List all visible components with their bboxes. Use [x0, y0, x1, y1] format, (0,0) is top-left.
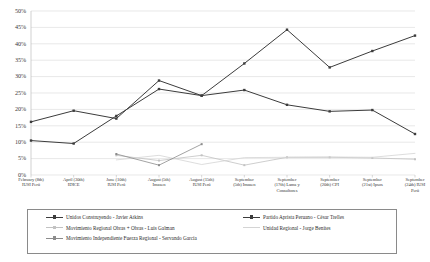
- data-point: [243, 89, 245, 91]
- data-point: [200, 94, 202, 96]
- data-point: [328, 66, 330, 68]
- y-axis-label: 30%: [0, 73, 26, 79]
- legend-item-label: Unidad Regional - Jorge Benites: [263, 225, 331, 231]
- data-point: [414, 34, 416, 36]
- y-axis-label: 10%: [0, 139, 26, 145]
- legend-item-label: Movimiento Independiente Fuerza Regional…: [66, 235, 197, 241]
- data-point: [158, 79, 160, 81]
- data-point: [115, 115, 117, 117]
- data-point: [243, 62, 245, 64]
- legend-swatch-icon: [46, 214, 63, 220]
- data-point: [72, 110, 74, 112]
- data-point: [115, 153, 117, 155]
- legend-item-label: Partido Aprista Peruano - César Trelles: [263, 214, 344, 220]
- legend-swatch-icon: [243, 214, 260, 220]
- x-axis-label: April (30th)IDICE: [54, 177, 94, 188]
- legend-swatch-icon: [243, 225, 260, 231]
- data-point: [286, 104, 288, 106]
- data-point: [371, 109, 373, 111]
- y-axis-label: 25%: [0, 90, 26, 96]
- x-axis-label: September(20th) CPI: [310, 177, 350, 188]
- data-point: [201, 143, 203, 145]
- x-axis-label: September(17th) Lama yConsultores: [267, 177, 307, 193]
- data-point: [201, 154, 203, 156]
- data-point: [30, 121, 32, 123]
- x-axis-label: August (5th)Imasen: [139, 177, 179, 188]
- legend-item[interactable]: Unidad Regional - Jorge Benites: [243, 225, 331, 231]
- legend-item-label: Unidos Construyendo - Javier Atkins: [66, 214, 143, 220]
- y-axis-label: 15%: [0, 123, 26, 129]
- y-axis-label: 50%: [0, 8, 26, 14]
- y-axis-label: 45%: [0, 24, 26, 30]
- x-axis-label: August (15th)IUSI Perú: [182, 177, 222, 188]
- plot-svg: [0, 0, 424, 200]
- x-axis-label: September(21st) Ipsos: [352, 177, 392, 188]
- x-axis-label: September(5th) Imasen: [224, 177, 264, 188]
- data-point: [72, 142, 74, 144]
- legend-item[interactable]: Unidos Construyendo - Javier Atkins: [46, 214, 143, 220]
- data-point: [158, 164, 160, 166]
- legend-item-label: Movimiento Regional Obras + Obras - Luis…: [66, 225, 175, 231]
- plot-area: [0, 0, 424, 200]
- data-point: [328, 110, 330, 112]
- legend-item[interactable]: Partido Aprista Peruano - César Trelles: [243, 214, 344, 220]
- y-axis-label: 5%: [0, 155, 26, 161]
- series-line: [116, 153, 415, 164]
- legend-item[interactable]: Movimiento Independiente Fuerza Regional…: [46, 235, 197, 241]
- y-axis-label: 20%: [0, 106, 26, 112]
- legend: Unidos Construyendo - Javier AtkinsParti…: [27, 209, 397, 254]
- y-axis-label: 40%: [0, 41, 26, 47]
- legend-item[interactable]: Movimiento Regional Obras + Obras - Luis…: [46, 225, 175, 231]
- data-point: [30, 139, 32, 141]
- legend-swatch-icon: [46, 225, 63, 231]
- data-point: [371, 50, 373, 52]
- data-point: [414, 158, 416, 160]
- series-line: [31, 30, 415, 144]
- data-point: [243, 164, 245, 166]
- x-axis-label: June (10th)IUSI Perú: [96, 177, 136, 188]
- x-axis-label: February (8th)IUSI Perú: [11, 177, 51, 188]
- x-axis-label: September(24th) IUSIPerú: [395, 177, 430, 193]
- data-point: [158, 88, 160, 90]
- data-point: [286, 28, 288, 30]
- data-point: [414, 133, 416, 135]
- legend-swatch-icon: [46, 235, 63, 241]
- data-point: [115, 117, 117, 119]
- data-point: [158, 160, 160, 162]
- y-axis-label: 35%: [0, 57, 26, 63]
